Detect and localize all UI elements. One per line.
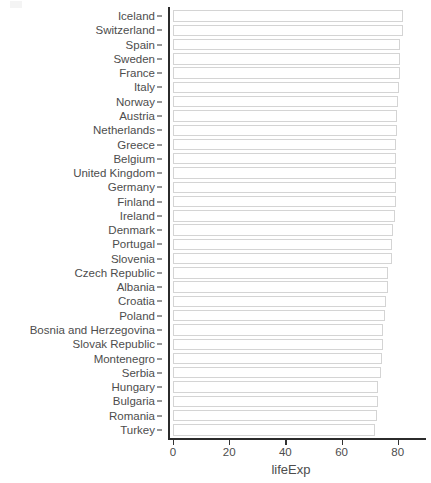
y-axis-tick-label: Denmark xyxy=(108,225,155,236)
bar-row xyxy=(173,281,409,292)
y-axis-tick-mark xyxy=(157,301,162,302)
bar xyxy=(173,67,400,78)
x-axis-line xyxy=(168,438,426,440)
y-axis-tick-mark xyxy=(157,415,162,416)
y-axis-tick-label: Montenegro xyxy=(94,353,155,364)
bar xyxy=(173,39,400,50)
bar xyxy=(173,324,383,335)
bar xyxy=(173,153,396,164)
y-axis-tick-label: Germany xyxy=(108,182,155,193)
bar-row xyxy=(173,53,409,64)
y-axis-tick-mark xyxy=(157,158,162,159)
bar xyxy=(173,310,385,321)
y-axis-tick-label: Albania xyxy=(117,282,155,293)
y-axis-tick-label: Greece xyxy=(117,139,155,150)
bar-row xyxy=(173,324,409,335)
bar-row xyxy=(173,296,409,307)
bar-row xyxy=(173,410,409,421)
y-axis-tick-label: Croatia xyxy=(118,296,155,307)
bar xyxy=(173,424,375,435)
y-axis-tick-label: Romania xyxy=(109,410,155,421)
bar xyxy=(173,253,392,264)
bar xyxy=(173,239,392,250)
bar-row xyxy=(173,110,409,121)
bar-row xyxy=(173,139,409,150)
y-axis-tick-label: Bosnia and Herzegovina xyxy=(30,325,155,336)
bar xyxy=(173,82,399,93)
bar-row xyxy=(173,224,409,235)
y-axis-tick-mark xyxy=(157,201,162,202)
bar-row xyxy=(173,267,409,278)
bar-row xyxy=(173,96,409,107)
bar-row xyxy=(173,239,409,250)
y-axis-tick-label: Iceland xyxy=(118,11,155,22)
y-axis-tick-label: Hungary xyxy=(112,382,155,393)
y-axis-tick-label: Portugal xyxy=(112,239,155,250)
bar-row xyxy=(173,10,409,21)
bar xyxy=(173,25,403,36)
bar xyxy=(173,182,396,193)
bar xyxy=(173,125,397,136)
plot-panel xyxy=(173,9,409,437)
y-axis-tick-label: Slovak Republic xyxy=(73,339,155,350)
y-axis-tick-label: Switzerland xyxy=(96,25,155,36)
bar xyxy=(173,10,403,21)
bar-row xyxy=(173,82,409,93)
bar-row xyxy=(173,210,409,221)
y-axis-tick-mark xyxy=(157,258,162,259)
y-axis-tick-mark xyxy=(157,101,162,102)
y-axis-tick-label: Norway xyxy=(116,96,155,107)
y-axis-tick-label: Poland xyxy=(119,310,155,321)
y-axis-tick-label: Belgium xyxy=(113,153,155,164)
y-axis-tick-label: Czech Republic xyxy=(74,267,155,278)
bar-row xyxy=(173,125,409,136)
y-axis-tick-label: Serbia xyxy=(122,367,155,378)
bar-row xyxy=(173,424,409,435)
bar xyxy=(173,296,386,307)
x-axis-tick-label: 60 xyxy=(335,446,348,458)
bar-row xyxy=(173,25,409,36)
bar-row xyxy=(173,253,409,264)
y-axis-tick-labels: IcelandSwitzerlandSpainSwedenFranceItaly… xyxy=(0,9,164,437)
bar-row xyxy=(173,381,409,392)
bar-row xyxy=(173,39,409,50)
y-axis-tick-mark xyxy=(157,244,162,245)
y-axis-tick-mark xyxy=(157,230,162,231)
y-axis-tick-mark xyxy=(157,429,162,430)
y-axis-tick-mark xyxy=(157,130,162,131)
bar xyxy=(173,139,396,150)
y-axis-tick-label: Turkey xyxy=(120,424,155,435)
y-axis-tick-mark xyxy=(157,87,162,88)
y-axis-tick-mark xyxy=(157,215,162,216)
x-axis-tick-label: 0 xyxy=(170,446,176,458)
x-axis-title: lifeExp xyxy=(173,462,409,477)
bar xyxy=(173,167,396,178)
y-axis-tick-mark xyxy=(157,344,162,345)
bar-row xyxy=(173,339,409,350)
bar xyxy=(173,381,378,392)
y-axis-tick-mark xyxy=(157,44,162,45)
y-axis-tick-mark xyxy=(157,58,162,59)
bar xyxy=(173,53,400,64)
y-axis-tick-mark xyxy=(157,287,162,288)
bar xyxy=(173,367,381,378)
bar xyxy=(173,96,398,107)
y-axis-tick-label: Finland xyxy=(117,196,155,207)
y-axis-tick-mark xyxy=(157,401,162,402)
bar xyxy=(173,410,377,421)
y-axis-tick-mark xyxy=(157,330,162,331)
y-axis-tick-label: France xyxy=(119,68,155,79)
y-axis-tick-mark xyxy=(157,372,162,373)
bar xyxy=(173,267,388,278)
bar-row xyxy=(173,353,409,364)
x-axis-tick-mark xyxy=(173,440,174,445)
bar xyxy=(173,224,393,235)
x-axis-tick-mark xyxy=(229,440,230,445)
bar xyxy=(173,353,382,364)
y-axis-tick-mark xyxy=(157,358,162,359)
bar-series xyxy=(173,9,409,437)
x-axis-tick-label: 80 xyxy=(391,446,404,458)
bar xyxy=(173,396,378,407)
bar xyxy=(173,339,383,350)
x-axis-tick-mark xyxy=(285,440,286,445)
